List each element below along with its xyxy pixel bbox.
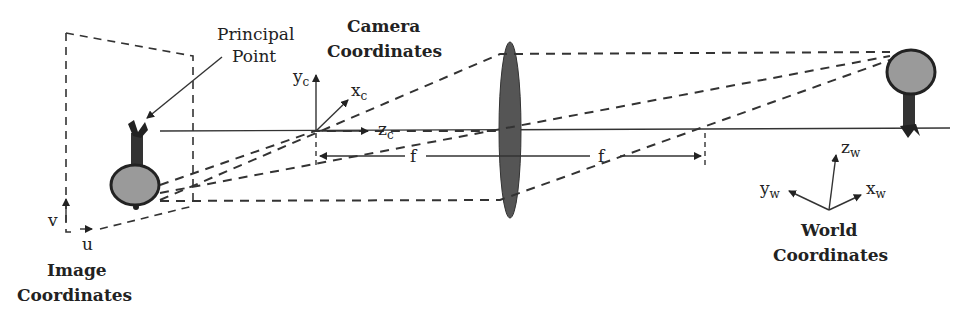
world-z-label: zw	[841, 137, 861, 160]
camera-z-label: zc	[378, 119, 394, 142]
image-coordinates-label-2: Coordinates	[17, 285, 132, 305]
camera-x-label: xc	[351, 80, 368, 103]
world-tree-icon	[887, 50, 935, 138]
focal-length-label-left: f	[410, 146, 418, 166]
camera-coordinates-label-2: Coordinates	[327, 41, 442, 61]
principal-point-label-2: Point	[232, 46, 276, 66]
camera-model-diagram: Principal Point v u Image Coordinates yc…	[0, 0, 976, 313]
world-coordinates-label: World	[800, 220, 857, 240]
camera-y-label: yc	[292, 66, 310, 89]
world-y-label: yw	[759, 178, 781, 201]
image-u-label: u	[82, 234, 93, 254]
lens	[499, 42, 521, 218]
projection-rays	[160, 52, 890, 201]
world-x-label: xw	[866, 178, 887, 201]
world-coordinates-label-2: Coordinates	[773, 245, 888, 265]
image-v-label: v	[47, 210, 58, 230]
image-tree-icon	[111, 120, 159, 210]
camera-coordinates-label: Camera	[347, 16, 420, 36]
optical-axis	[160, 128, 950, 131]
image-coordinates-label: Image	[47, 260, 107, 280]
world-frame	[789, 155, 861, 210]
principal-point-label: Principal	[217, 24, 294, 44]
principal-point-pointer	[147, 57, 222, 118]
